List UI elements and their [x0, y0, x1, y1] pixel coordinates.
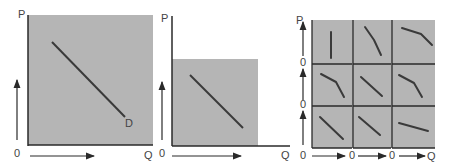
panel-2-background	[172, 59, 258, 146]
panel-3: P 0 0 0 0 0 Q	[296, 14, 436, 162]
panel-3-col-origin-2: 0	[389, 149, 395, 161]
panel-1-q-label: Q	[144, 149, 153, 161]
panel-2-q-label: Q	[281, 149, 290, 161]
panel-1-p-label: P	[18, 8, 25, 20]
panel-1-origin-label: 0	[14, 147, 20, 159]
panel-3-row-origin-2: 0	[300, 98, 306, 110]
panel-1: P D 0 Q	[14, 8, 153, 161]
panel-2-p-label: P	[161, 12, 168, 24]
panel-3-p-label: P	[296, 14, 303, 26]
panel-3-col-origin-1: 0	[349, 149, 355, 161]
demand-curve-diagram: P D 0 Q P 0 Q	[0, 0, 450, 168]
panel-3-q-label: Q	[427, 150, 436, 162]
panel-2: P 0 Q	[159, 12, 290, 161]
panel-3-row-origin-3: 0	[300, 149, 306, 161]
panel-2-origin-label: 0	[159, 147, 165, 159]
panel-1-background	[28, 15, 153, 145]
panel-1-d-label: D	[125, 117, 133, 129]
panel-3-row-origin-1: 0	[300, 56, 306, 68]
